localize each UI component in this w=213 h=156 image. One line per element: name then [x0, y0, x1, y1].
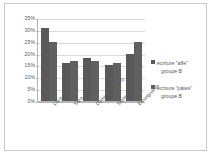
bar-group [62, 18, 78, 101]
y-axis-tick-label: 35% [25, 16, 35, 21]
legend-label: écriture "affe"groupe B [157, 59, 188, 75]
legend-swatch [151, 85, 155, 89]
bar [62, 63, 70, 101]
x-axis-labels: LucaSaraDemiano (target)StefaniaEnseigna… [37, 103, 144, 148]
legend-label-line2: groupe B [157, 92, 192, 100]
bar-group [126, 18, 142, 101]
legend-entry: écriture "affe"groupe B [151, 59, 209, 75]
y-axis-tick-label: 30% [25, 28, 35, 33]
legend-entry: écriture "pâtes"groupe B [151, 84, 209, 100]
y-axis-tick-label: 10% [25, 76, 35, 81]
bar-group [41, 18, 57, 101]
bar-group [83, 18, 99, 101]
y-axis-tick-label: 15% [25, 64, 35, 69]
legend-label-line2: groupe B [157, 67, 188, 75]
bar [91, 61, 99, 101]
chart-legend: écriture "affe"groupe Bécriture "pâtes"g… [151, 59, 209, 109]
bar-groups [38, 18, 145, 101]
bar [41, 28, 49, 102]
bar [134, 42, 142, 101]
bar [83, 58, 91, 101]
bar [49, 42, 57, 101]
legend-label: écriture "pâtes"groupe B [157, 84, 192, 100]
chart-frame: 0%5%10%15%20%25%30%35% LucaSaraDemiano (… [4, 3, 207, 151]
bar [70, 61, 78, 101]
y-axis-tick-label: 5% [28, 88, 36, 93]
y-axis-tick-label: 20% [25, 52, 35, 57]
legend-swatch [151, 60, 155, 64]
y-axis-tick-label: 0% [28, 99, 36, 104]
y-axis-tick-label: 25% [25, 40, 35, 45]
